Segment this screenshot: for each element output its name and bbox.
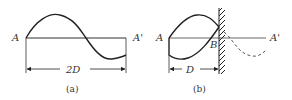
label-a-left: A: [11, 32, 19, 43]
wave-curve-a: [26, 14, 126, 59]
incident-wave-b: [169, 15, 219, 38]
dimension-label-a: 2D: [65, 64, 80, 75]
diagram-canvas: A A' 2D (a) A B A' D (b): [0, 0, 292, 100]
figure-b: A B A' D (b): [155, 8, 280, 94]
label-a-right: A': [132, 32, 143, 43]
figure-a: A A' 2D (a): [11, 14, 143, 94]
transmitted-dashed-wave-b: [224, 32, 266, 56]
wall: [219, 8, 225, 74]
caption-b: (b): [193, 84, 206, 94]
label-b-reflection-point: B: [209, 39, 217, 50]
caption-a: (a): [66, 84, 78, 94]
label-b-right: A': [269, 32, 280, 43]
dimension-label-b: D: [185, 64, 194, 75]
label-b-left: A: [155, 32, 163, 43]
